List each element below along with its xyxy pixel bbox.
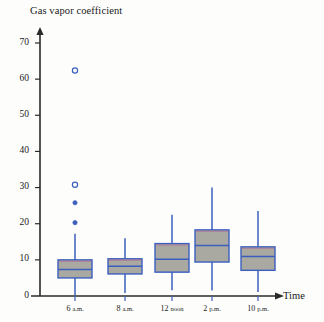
x-tick-label: 10 p.m. <box>247 304 269 313</box>
y-tick-label: 60 <box>7 73 29 83</box>
y-tick-label: 0 <box>7 290 29 300</box>
y-tick-label: 20 <box>7 217 29 227</box>
x-tick-label: 2 p.m. <box>203 304 221 313</box>
boxplot-group <box>241 211 275 292</box>
boxplot-group <box>58 68 92 295</box>
boxplot-group <box>108 238 142 293</box>
y-tick-label: 10 <box>7 253 29 263</box>
box-rect <box>155 244 189 273</box>
y-axis-arrowhead <box>36 27 43 35</box>
boxplot-figure: Gas vapor coefficient 010203040506070 6 … <box>0 0 324 322</box>
boxplot-group <box>155 215 189 291</box>
plot-canvas <box>0 0 324 322</box>
x-axis-label: Time <box>283 290 305 301</box>
y-tick-label: 50 <box>7 109 29 119</box>
y-tick-label: 40 <box>7 145 29 155</box>
x-tick-label: 12 noon <box>161 304 184 313</box>
boxes-layer <box>58 68 275 295</box>
outlier-open-marker <box>72 182 77 187</box>
x-tick-label: 6 a.m. <box>66 304 83 313</box>
outlier-open-marker <box>72 68 77 73</box>
boxplot-group <box>195 188 229 291</box>
outlier-filled-marker <box>73 221 77 225</box>
x-tick-label: 8 a.m. <box>116 304 133 313</box>
outlier-filled-marker <box>73 201 77 205</box>
box-rect <box>241 247 275 270</box>
y-tick-label: 30 <box>7 181 29 191</box>
y-tick-label: 70 <box>7 37 29 47</box>
